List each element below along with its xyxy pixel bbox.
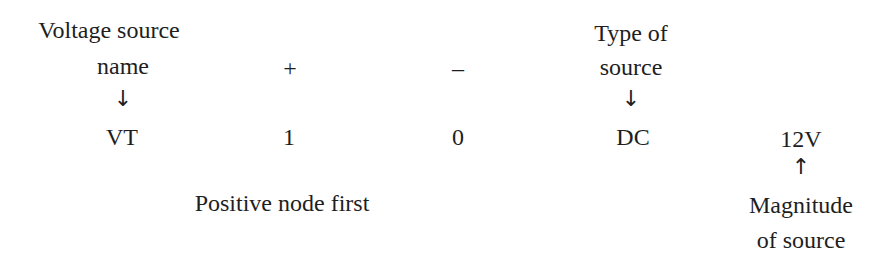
plus-label: +	[283, 56, 297, 80]
type-of-source-label-line2: source	[600, 55, 663, 79]
negative-node-value: 0	[452, 125, 464, 149]
down-arrow-icon: ↓	[622, 88, 640, 110]
positive-node-value: 1	[283, 125, 295, 149]
source-type-value: DC	[616, 125, 649, 149]
source-name-value: VT	[106, 125, 138, 149]
magnitude-value: 12V	[780, 127, 821, 151]
down-arrow-icon: ↓	[114, 88, 132, 110]
magnitude-label-line1: Magnitude	[749, 193, 853, 217]
voltage-source-name-label-line2: name	[97, 54, 149, 78]
voltage-source-name-label-line1: Voltage source	[38, 18, 180, 42]
magnitude-label-line2: of source	[757, 228, 846, 252]
minus-label: –	[452, 56, 464, 80]
up-arrow-icon: ↑	[792, 156, 810, 178]
positive-node-first-note: Positive node first	[195, 191, 370, 215]
type-of-source-label-line1: Type of	[594, 21, 668, 45]
